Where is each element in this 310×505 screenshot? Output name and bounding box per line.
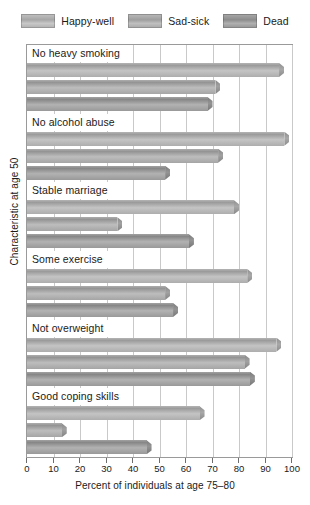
x-axis-tick-label: 20 [75,463,86,475]
bar-body [27,423,62,437]
bar-slot [27,234,292,248]
bar-body [27,406,200,420]
bar-body [27,217,117,231]
bar[interactable] [27,355,250,369]
bar-end-cap [218,149,223,163]
bar-slot [27,80,292,94]
bar-end-cap [208,97,213,111]
bar-slot [27,338,292,352]
x-axis-tick-label: 80 [234,463,245,475]
bar-end-cap [245,355,250,369]
bar-body [27,166,165,180]
bar-end-cap [250,372,255,386]
bar-body [27,80,215,94]
x-axis-tick-label: 10 [48,463,59,475]
chart-legend: Happy-well Sad-sick Dead [0,12,310,30]
bar[interactable] [27,338,281,352]
x-axis-tick-label: 50 [154,463,165,475]
bar[interactable] [27,200,239,214]
bar-slot [27,303,292,317]
bar-slot [27,63,292,77]
bar-end-cap [279,63,284,77]
bar[interactable] [27,166,170,180]
bar-slot [27,132,292,146]
bar-body [27,355,245,369]
bar-end-cap [117,217,122,231]
bar[interactable] [27,217,122,231]
bar-end-cap [276,338,281,352]
bar-group-bars [27,132,292,183]
bar-group-bars [27,200,292,251]
bar-body [27,200,234,214]
legend-swatch-icon [223,14,257,28]
bar-group-label: Stable marriage [28,182,114,199]
x-axis-title: Percent of individuals at age 75–80 [0,480,310,491]
bar-group-label: No alcohol abuse [28,114,121,131]
bar[interactable] [27,80,220,94]
bar-end-cap [165,286,170,300]
bar-slot [27,217,292,231]
bar-slot [27,149,292,163]
x-axis-tick-label: 0 [24,463,29,475]
bar[interactable] [27,149,223,163]
bar-end-cap [147,440,152,454]
bar[interactable] [27,97,213,111]
bar-end-cap [247,269,252,283]
legend-item-happy-well: Happy-well [21,14,114,28]
bar-slot [27,286,292,300]
bar-group-bars [27,406,292,457]
legend-item-dead: Dead [223,14,289,28]
bar-slot [27,423,292,437]
bar[interactable] [27,303,178,317]
bar[interactable] [27,234,194,248]
bar-slot [27,372,292,386]
bar-body [27,234,189,248]
bar-group-label: No heavy smoking [28,45,126,62]
bar-end-cap [284,132,289,146]
x-axis-tick-label: 30 [101,463,112,475]
bar-group-label: Not overweight [28,320,109,337]
bar-body [27,149,218,163]
bar[interactable] [27,63,284,77]
bar-group: Some exercise [27,251,292,320]
bar-body [27,338,276,352]
bar-group-bars [27,269,292,320]
legend-swatch-icon [128,14,162,28]
bar-end-cap [215,80,220,94]
bar-body [27,372,250,386]
bar[interactable] [27,132,289,146]
bar-slot [27,440,292,454]
bar[interactable] [27,440,152,454]
x-axis-tick-label: 60 [181,463,192,475]
legend-label: Happy-well [61,16,114,27]
bar-end-cap [200,406,205,420]
bar-group: Good coping skills [27,388,292,457]
bar-body [27,97,208,111]
y-axis-title: Characteristic at age 50 [9,142,20,282]
bar[interactable] [27,423,67,437]
x-axis-tick-label: 90 [260,463,271,475]
bar-slot [27,406,292,420]
bar-slot [27,97,292,111]
legend-swatch-icon [21,14,55,28]
gridline [292,45,293,457]
bar-end-cap [62,423,67,437]
bar-slot [27,355,292,369]
bar-end-cap [165,166,170,180]
bar-body [27,440,147,454]
bar[interactable] [27,269,252,283]
bar[interactable] [27,372,255,386]
bar[interactable] [27,286,170,300]
bar-group-label: Some exercise [28,251,109,268]
bar-slot [27,269,292,283]
x-axis-tick-label: 40 [128,463,139,475]
bar-group: Not overweight [27,320,292,389]
bar-slot [27,200,292,214]
x-axis-tick-label: 100 [284,463,300,475]
bar-body [27,286,165,300]
legend-item-sad-sick: Sad-sick [128,14,209,28]
bar[interactable] [27,406,205,420]
bar-end-cap [173,303,178,317]
bar-group-label: Good coping skills [28,388,125,405]
bar-groups: No heavy smokingNo alcohol abuseStable m… [27,45,292,457]
